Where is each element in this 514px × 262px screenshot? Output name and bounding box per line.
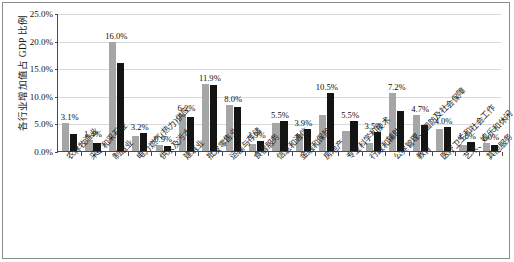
y-axis-tick-label: 25.0% [8,9,53,19]
y-axis-tick-label: 5.0% [8,119,53,129]
y-axis-tick-label: 15.0% [8,64,53,74]
bar-group [58,14,81,151]
bar-value-label: 10.5% [316,83,338,92]
bar-value-label: 4.7% [411,105,429,114]
bar-value-label: 5.5% [271,111,289,120]
bar-series-1 [202,84,209,151]
bar-series-1 [62,123,69,151]
chart-root: 各行业增加值占 GDP 比例 0.0%5.0%10.0%15.0%20.0%25… [0,0,514,262]
bar-series-1 [436,129,443,151]
bar-value-label: 7.2% [388,83,406,92]
bar-value-label: 3.1% [61,113,79,122]
bar-group [268,14,291,151]
bar-group [338,14,361,151]
bar-value-label: 11.9% [199,74,221,83]
bar-series-2 [210,85,217,151]
bar-series-2 [327,93,334,151]
bar-value-label: 16.0% [105,32,127,41]
y-axis-tick-label: 0.0% [8,147,53,157]
y-axis-tick-label: 10.0% [8,92,53,102]
bar-value-label: 5.5% [341,111,359,120]
bar-value-label: 8.0% [224,95,242,104]
bar-value-label: 3.2% [131,123,149,132]
x-axis-tick-mark [502,152,503,156]
bar-series-1 [342,131,349,151]
x-axis-labels: 农林牧渔业采矿和采石业制造业电力燃气(热力)供应供水及污水建筑业批发零售业运输与… [57,152,501,260]
bar-group [432,14,455,151]
y-axis-tick-label: 20.0% [8,37,53,47]
